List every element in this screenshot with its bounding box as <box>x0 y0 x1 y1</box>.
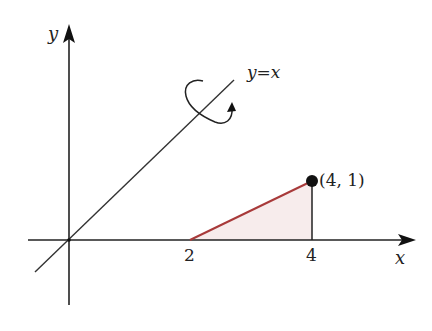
line-label: y=x <box>246 62 281 82</box>
point-label: (4, 1) <box>319 170 365 190</box>
rotation-arrow-icon <box>185 80 232 123</box>
tick-label-2: 2 <box>184 245 195 265</box>
rotation-arrowhead-icon <box>227 102 236 112</box>
point-4-1 <box>306 175 318 187</box>
diagram-canvas: y x y=x (4, 1) 2 4 <box>0 0 432 331</box>
tick-label-4: 4 <box>306 245 317 265</box>
line-y-equals-x <box>35 80 234 272</box>
x-axis-label: x <box>395 247 405 268</box>
origin-dot <box>67 238 71 242</box>
y-axis-label: y <box>47 23 59 44</box>
